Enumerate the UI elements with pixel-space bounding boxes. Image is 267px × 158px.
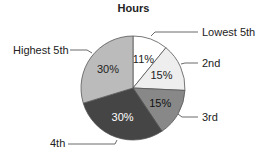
leader-line [178,114,198,117]
label-3rd: 3rd [202,111,218,123]
leader-line [70,50,92,53]
pie-chart: 11%15%15%30%30% [0,0,267,158]
label-highest-5th: Highest 5th [13,44,69,56]
label-lowest-5th: Lowest 5th [202,26,255,38]
slice-value-label: 15% [149,97,171,109]
leader-line [181,63,198,64]
slice-value-label: 11% [133,53,154,65]
label-2nd: 2nd [202,57,220,69]
leader-line [151,32,198,36]
leader-line [68,140,117,144]
slice-value-label: 15% [150,69,172,81]
slice-value-label: 30% [112,111,134,123]
slice-value-label: 30% [97,63,119,75]
label-4th: 4th [50,137,65,149]
